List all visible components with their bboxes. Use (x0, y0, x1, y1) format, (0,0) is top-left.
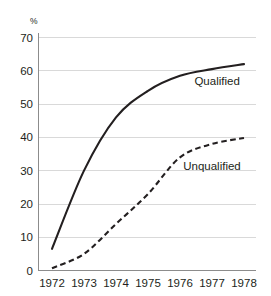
x-tick-label-1974: 1974 (103, 277, 129, 289)
y-tick-label-30: 30 (20, 165, 33, 177)
x-tick-label-1975: 1975 (135, 277, 161, 289)
y-tick-label-50: 50 (20, 98, 33, 110)
series-line-unqualified (52, 138, 244, 268)
chart-canvas: % 70 60 50 40 30 20 10 0 1972 1973 1974 … (0, 0, 271, 296)
x-tick-label-1978: 1978 (231, 277, 257, 289)
y-tick-label-20: 20 (20, 198, 33, 210)
y-tick-label-40: 40 (20, 131, 33, 143)
x-tick-label-1972: 1972 (39, 277, 65, 289)
x-tick-label-1977: 1977 (199, 277, 225, 289)
y-axis-unit-label: % (30, 16, 38, 26)
y-tick-label-0: 0 (27, 265, 33, 277)
series-line-qualified (52, 64, 244, 249)
y-tick-label-70: 70 (20, 32, 33, 44)
x-tick-label-1976: 1976 (167, 277, 193, 289)
x-tick-label-1973: 1973 (71, 277, 97, 289)
line-chart: % 70 60 50 40 30 20 10 0 1972 1973 1974 … (0, 0, 271, 296)
series-label-qualified: Qualified (194, 75, 239, 87)
x-axis-tick-labels: 1972 1973 1974 1975 1976 1977 1978 (39, 277, 257, 289)
y-tick-label-60: 60 (20, 65, 33, 77)
series-label-unqualified: Unqualified (183, 160, 241, 172)
y-tick-label-10: 10 (20, 231, 33, 243)
y-axis-tick-labels: 70 60 50 40 30 20 10 0 (20, 32, 33, 277)
